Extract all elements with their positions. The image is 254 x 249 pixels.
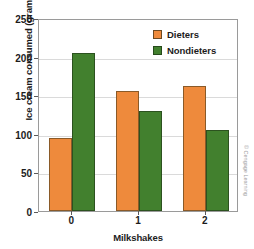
y-tick-label: 50 <box>0 168 32 179</box>
x-tick-mark <box>205 211 206 215</box>
bar-nondieters-2 <box>206 130 229 211</box>
chart-legend: Dieters Nondieters <box>149 25 220 61</box>
y-tick-label: 200 <box>0 52 32 63</box>
x-axis-tick-labels: 012 <box>38 215 238 229</box>
plot-area: Dieters Nondieters <box>38 19 238 212</box>
y-tick-label: 0 <box>0 207 32 218</box>
y-axis-tick-labels: 050100150200250 <box>0 0 36 249</box>
x-axis-title: Milkshakes <box>38 232 238 243</box>
bar-dieters-0 <box>49 138 72 211</box>
legend-label-dieters: Dieters <box>167 29 199 40</box>
bar-nondieters-1 <box>139 111 162 211</box>
legend-label-nondieters: Nondieters <box>167 45 216 56</box>
y-tick-label: 150 <box>0 91 32 102</box>
bar-nondieters-0 <box>72 53 95 211</box>
legend-entry-dieters: Dieters <box>153 27 216 41</box>
legend-swatch-nondieters-icon <box>153 46 162 55</box>
y-tick-label: 250 <box>0 14 32 25</box>
x-tick-label: 1 <box>126 215 150 226</box>
bar-dieters-1 <box>116 91 139 211</box>
legend-entry-nondieters: Nondieters <box>153 43 216 57</box>
y-tick-mark <box>34 212 38 213</box>
x-tick-mark <box>138 211 139 215</box>
legend-swatch-dieters-icon <box>153 30 162 39</box>
bar-chart-figure: Ice cream consumed (grams) 0501001502002… <box>0 0 254 249</box>
bar-dieters-2 <box>183 86 206 211</box>
y-tick-label: 100 <box>0 129 32 140</box>
x-tick-mark <box>71 211 72 215</box>
attribution-text: © Cengage Learning <box>239 145 249 217</box>
x-tick-label: 0 <box>59 215 83 226</box>
x-tick-label: 2 <box>193 215 217 226</box>
